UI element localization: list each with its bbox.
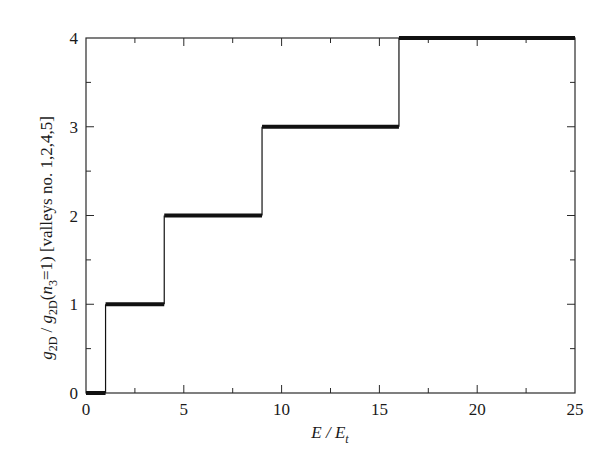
x-tick-label: 25 (567, 400, 584, 419)
axis-ticks (86, 38, 575, 393)
step-chart: 051015202501234 E / Et g2D / g2D(n3=1) [… (0, 0, 612, 460)
x-axis-label: E / Et (310, 423, 349, 446)
y-tick-label: 4 (70, 29, 79, 48)
data-series (86, 38, 575, 393)
y-tick-label: 1 (70, 295, 79, 314)
y-tick-label: 3 (70, 118, 79, 137)
axis-tick-labels: 051015202501234 (70, 29, 584, 419)
x-tick-label: 0 (82, 400, 91, 419)
plot-frame (86, 38, 575, 393)
y-tick-label: 2 (70, 207, 79, 226)
x-tick-label: 5 (180, 400, 189, 419)
plot-border (86, 38, 575, 393)
y-tick-label: 0 (70, 384, 79, 403)
x-tick-label: 10 (273, 400, 290, 419)
x-tick-label: 15 (371, 400, 388, 419)
x-tick-label: 20 (469, 400, 486, 419)
y-axis-label: g2D / g2D(n3=1) [valleys no. 1,2,4,5] (37, 116, 60, 360)
